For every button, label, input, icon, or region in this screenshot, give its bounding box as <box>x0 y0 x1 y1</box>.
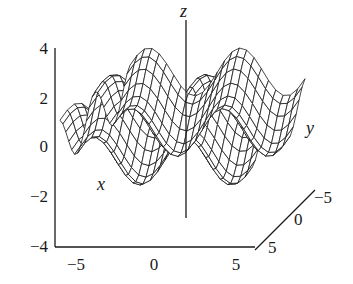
z-tick-neg2: −2 <box>30 187 48 206</box>
x-tick-0: 0 <box>150 255 159 274</box>
x-tick-5: 5 <box>232 255 241 274</box>
surface-mesh <box>60 48 305 185</box>
z-tick-2: 2 <box>40 89 49 108</box>
z-tick-4: 4 <box>40 39 49 58</box>
z-tick-0: 0 <box>40 137 49 156</box>
y-axis-line <box>255 190 315 250</box>
x-axis-label: x <box>96 174 105 194</box>
z-axis-label: z <box>179 1 187 21</box>
z-tick-neg4: −4 <box>30 237 49 256</box>
surface-plot: 4 2 0 −2 −4 −5 0 5 −5 0 5 x y z <box>0 0 353 284</box>
y-axis-label: y <box>304 118 314 138</box>
y-tick-5: 5 <box>268 238 277 257</box>
y-tick-neg5: −5 <box>314 188 332 207</box>
x-tick-neg5: −5 <box>67 255 85 274</box>
y-tick-0: 0 <box>294 210 303 229</box>
